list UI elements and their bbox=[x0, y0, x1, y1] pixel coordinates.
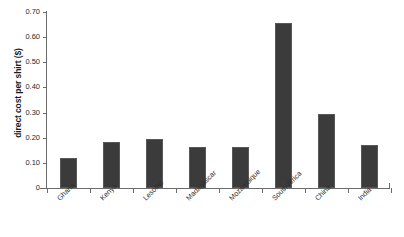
x-axis-tick-mark bbox=[305, 188, 306, 193]
y-axis-tick: 0.60 bbox=[0, 37, 47, 38]
x-axis-tick-mark bbox=[133, 188, 134, 193]
x-axis-line bbox=[40, 188, 390, 189]
bar bbox=[275, 23, 292, 188]
bar-chart: direct cost per shirt ($) 0.700.600.500.… bbox=[0, 0, 404, 237]
x-axis-category-labels: GhanaKenyaLesothoMadagascarMozambiqueSou… bbox=[0, 196, 404, 237]
x-axis-tick-mark bbox=[47, 188, 48, 193]
y-axis-tick: 0.30 bbox=[0, 113, 47, 114]
x-axis-tick-mark bbox=[219, 188, 220, 193]
y-axis-tick-label: 0.60 bbox=[25, 32, 40, 41]
y-axis-tick-label: 0.70 bbox=[25, 7, 40, 16]
bar bbox=[318, 114, 335, 188]
y-axis-tick: 0.70 bbox=[0, 12, 47, 13]
x-axis-tick-mark bbox=[176, 188, 177, 193]
y-axis-tick: 0.10 bbox=[0, 163, 47, 164]
y-axis-tick: 0.20 bbox=[0, 138, 47, 139]
y-axis-tick-label: 0.50 bbox=[25, 57, 40, 66]
bar bbox=[361, 145, 378, 188]
y-axis-tick: 0 bbox=[0, 188, 47, 189]
x-axis-tick-mark bbox=[90, 188, 91, 193]
x-axis-tick-mark bbox=[391, 188, 392, 193]
y-axis-tick: 0.50 bbox=[0, 62, 47, 63]
y-axis-tick-label: 0.40 bbox=[25, 82, 40, 91]
x-axis-tick-mark bbox=[348, 188, 349, 193]
y-axis-tick-label: 0.30 bbox=[25, 108, 40, 117]
y-axis-tick-label: 0 bbox=[36, 183, 40, 192]
y-axis-tick-label: 0.10 bbox=[25, 158, 40, 167]
x-axis-tick-mark bbox=[262, 188, 263, 193]
plot-area bbox=[47, 12, 391, 188]
y-axis-tick: 0.40 bbox=[0, 87, 47, 88]
y-axis-tick-label: 0.20 bbox=[25, 133, 40, 142]
